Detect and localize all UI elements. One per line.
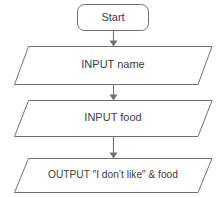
flowchart-diagram: Start INPUT name INPUT food OUTPUT "I do… [0, 0, 220, 198]
connector-input-name-to-input-food [110, 85, 118, 101]
arrowhead-icon [110, 95, 118, 101]
node-input-name-label: INPUT name [81, 58, 144, 70]
arrowhead-icon [110, 41, 118, 47]
node-start-label: Start [101, 11, 124, 23]
connector-input-food-to-output-message [110, 137, 118, 159]
node-input-food-label: INPUT food [84, 111, 141, 123]
connector-start-to-input-name [110, 31, 118, 47]
node-output-message-label: OUTPUT "I don’t like" & food [48, 169, 178, 180]
arrowhead-icon [110, 153, 118, 159]
